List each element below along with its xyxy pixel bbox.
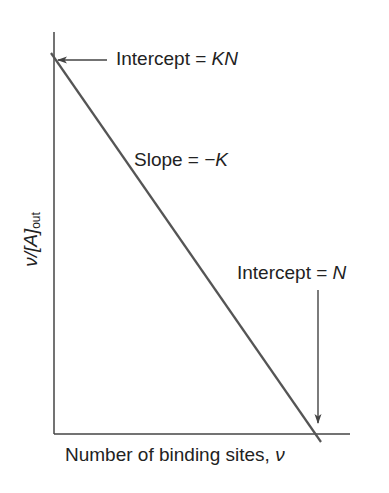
slope-symbol: −K [204, 149, 228, 170]
slope-text: Slope = [134, 149, 204, 170]
y-axis-label-subscript: out [29, 212, 43, 229]
y-intercept-symbol: KN [212, 48, 238, 69]
x-axis-label: Number of binding sites, ν [65, 444, 285, 466]
x-axis-label-text: Number of binding sites, [65, 444, 275, 465]
slope-annotation: Slope = −K [134, 149, 228, 171]
x-intercept-text: Intercept = [237, 262, 333, 283]
y-intercept-annotation: Intercept = KN [116, 48, 238, 70]
scatchard-line [51, 53, 321, 442]
x-axis-label-symbol: ν [275, 444, 285, 465]
x-intercept-symbol: N [333, 262, 347, 283]
y-axis-label-main: ν/[A] [20, 229, 41, 267]
y-axis-label: ν/[A]out [20, 193, 47, 287]
plot-canvas [0, 0, 389, 493]
y-intercept-text: Intercept = [116, 48, 212, 69]
scatchard-plot: Intercept = KN Slope = −K Intercept = N … [0, 0, 389, 493]
x-intercept-annotation: Intercept = N [237, 262, 346, 284]
